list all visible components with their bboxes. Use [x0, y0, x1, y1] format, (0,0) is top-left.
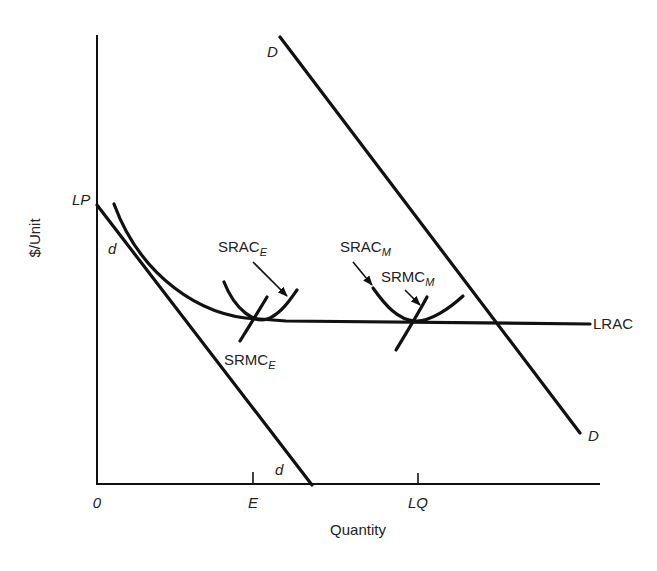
srac-e-curve — [224, 282, 297, 320]
lp-label: LP — [72, 191, 90, 208]
srac-m-label: SRACM — [340, 238, 392, 258]
origin-label: 0 — [93, 494, 102, 511]
cost-curve-diagram: $/Unit Quantity 0 LP E LQ D D d d LRAC S… — [0, 0, 657, 571]
industry-demand-label-bottom: D — [588, 427, 599, 444]
lq-tick-label: LQ — [408, 494, 428, 511]
industry-demand-label-top: D — [267, 43, 278, 60]
lrac-label: LRAC — [593, 315, 633, 332]
industry-demand-line — [280, 37, 580, 433]
srac-e-label: SRACE — [218, 238, 268, 258]
y-axis-label: $/Unit — [26, 218, 43, 258]
srac-e-arrow — [253, 262, 287, 296]
x-axis-label: Quantity — [330, 521, 386, 538]
axes — [97, 35, 600, 484]
e-tick-label: E — [248, 494, 259, 511]
srmc-e-label: SRMCE — [224, 351, 276, 371]
firm-demand-label-top: d — [108, 240, 117, 257]
srmc-m-label: SRMCM — [381, 268, 435, 288]
firm-demand-label-bottom: d — [275, 461, 284, 478]
firm-demand-line — [97, 205, 312, 485]
srac-m-arrow — [353, 262, 372, 285]
srmc-m-arrow — [405, 290, 420, 305]
lrac-curve — [114, 204, 590, 324]
